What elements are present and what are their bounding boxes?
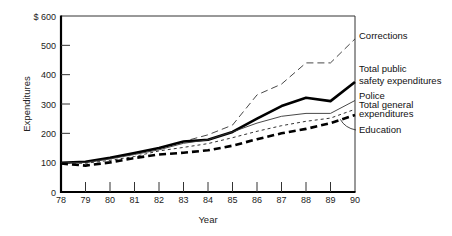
x-tick-label: 85	[227, 195, 237, 205]
y-tick-label: $ 600	[33, 12, 56, 22]
x-tick-label: 81	[129, 195, 139, 205]
y-tick-label: 300	[41, 100, 56, 110]
series-label: safety expenditures	[359, 75, 442, 86]
y-axis-title: Expenditures	[21, 76, 32, 132]
y-tick-label: 200	[41, 129, 56, 139]
x-tick-label: 79	[80, 195, 90, 205]
x-tick-label: 80	[105, 195, 115, 205]
series-line-corrections	[61, 39, 355, 163]
x-axis-title: Year	[198, 214, 217, 225]
x-axis-ticks: 78798081828384858687888990	[56, 182, 360, 205]
series-label: Corrections	[359, 30, 408, 41]
series-lines	[61, 39, 355, 166]
x-tick-label: 88	[301, 195, 311, 205]
x-tick-label: 87	[276, 195, 286, 205]
y-axis-ticks: 0100200300400500$ 600	[33, 12, 70, 198]
x-tick-label: 83	[178, 195, 188, 205]
x-tick-label: 89	[325, 195, 335, 205]
series-label: Total public	[359, 63, 407, 74]
plot-frame	[60, 16, 356, 194]
series-label: Education	[359, 124, 401, 135]
series-label: expenditures	[359, 108, 414, 119]
series-line-total-general-expenditures	[61, 109, 355, 163]
x-tick-label: 82	[154, 195, 164, 205]
line-chart: 0100200300400500$ 600 787980818283848586…	[0, 0, 452, 236]
x-tick-label: 78	[56, 195, 66, 205]
series-line-police	[61, 101, 355, 163]
y-tick-label: 100	[41, 158, 56, 168]
education-leader-line	[340, 119, 356, 130]
y-tick-label: 400	[41, 70, 56, 80]
y-tick-label: 500	[41, 41, 56, 51]
x-tick-label: 90	[350, 195, 360, 205]
x-tick-label: 86	[252, 195, 262, 205]
x-tick-label: 84	[203, 195, 213, 205]
